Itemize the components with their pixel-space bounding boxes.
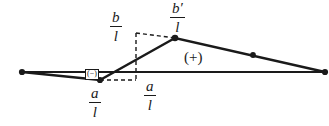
label-b-over-l: b l bbox=[110, 10, 122, 44]
label-negative-region: (−) bbox=[85, 69, 99, 80]
influence-line-polyline bbox=[22, 38, 325, 80]
fraction-bar bbox=[89, 102, 101, 103]
label-a-over-l-left-numerator: a bbox=[89, 86, 101, 102]
fraction-bar bbox=[110, 26, 122, 27]
figure-root: b l b′ l a l a l (+) (−) bbox=[0, 0, 329, 126]
node-left-endpoint bbox=[19, 69, 25, 75]
label-a-over-l-right-numerator: a bbox=[144, 79, 156, 95]
label-b-over-l-numerator: b bbox=[110, 10, 122, 26]
fraction-bar bbox=[170, 17, 185, 18]
node-mid-right-marker bbox=[250, 52, 256, 58]
label-b-over-l-denominator: l bbox=[110, 28, 122, 44]
diagram-canvas bbox=[0, 0, 329, 126]
label-bprime-over-l: b′ l bbox=[170, 1, 185, 35]
fraction-bar bbox=[144, 95, 156, 96]
label-a-over-l-left: a l bbox=[89, 86, 101, 120]
label-positive-region: (+) bbox=[184, 50, 202, 65]
label-bprime-over-l-numerator: b′ bbox=[170, 1, 185, 17]
label-a-over-l-right: a l bbox=[144, 79, 156, 113]
label-a-over-l-right-denominator: l bbox=[144, 97, 156, 113]
label-bprime-over-l-denominator: l bbox=[170, 19, 185, 35]
node-peak-vertex bbox=[172, 35, 179, 42]
label-a-over-l-left-denominator: l bbox=[89, 104, 101, 120]
node-right-endpoint bbox=[322, 69, 328, 75]
